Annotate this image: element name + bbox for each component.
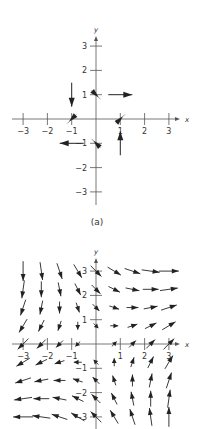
- y-tick-label: 3: [82, 42, 87, 51]
- y-axis-label: y: [93, 248, 99, 256]
- x-tick-label: −2: [42, 127, 54, 136]
- arrowhead-icon: [111, 393, 116, 400]
- arrowhead-icon: [130, 374, 135, 381]
- arrowhead-icon: [132, 287, 139, 292]
- x-tick-label: 2: [142, 352, 147, 361]
- arrowhead-icon: [110, 410, 116, 417]
- y-tick-label: 1: [82, 91, 87, 100]
- y-tick-label: 2: [82, 66, 87, 75]
- arrowhead-icon: [169, 305, 176, 310]
- arrowhead-icon: [123, 92, 132, 98]
- arrowhead-icon: [19, 325, 25, 332]
- arrowhead-icon: [112, 358, 117, 363]
- arrowhead-icon: [33, 396, 40, 401]
- arrowhead-icon: [57, 307, 62, 314]
- arrowhead-icon: [113, 287, 120, 292]
- y-tick-label: 2: [82, 291, 87, 300]
- arrowhead-icon: [75, 306, 80, 313]
- x-tick-label: −2: [42, 352, 54, 361]
- x-tick-label: −1: [66, 127, 78, 136]
- arrowhead-icon: [55, 360, 62, 365]
- vector-field-plot-b: xy−3−2−1123321−1−2−3: [0, 239, 200, 429]
- x-tick-label: −3: [17, 127, 29, 136]
- arrowhead-icon: [39, 290, 44, 297]
- arrowhead-icon: [20, 308, 25, 315]
- arrowhead-icon: [148, 408, 153, 415]
- arrowhead-icon: [69, 98, 75, 107]
- arrowhead-icon: [131, 305, 138, 310]
- arrowhead-icon: [60, 140, 69, 146]
- x-tick-label: 1: [118, 352, 123, 361]
- arrowhead-icon: [16, 361, 23, 367]
- arrowhead-icon: [152, 269, 159, 274]
- arrowhead-icon: [149, 323, 156, 328]
- y-tick-label: 3: [82, 267, 87, 276]
- arrowhead-icon: [13, 415, 20, 420]
- arrowhead-icon: [94, 36, 98, 41]
- arrowhead-icon: [130, 409, 135, 416]
- arrowhead-icon: [38, 324, 43, 331]
- arrowhead-icon: [34, 378, 41, 383]
- arrowhead-icon: [21, 274, 26, 281]
- x-axis-label: x: [184, 341, 190, 349]
- arrowhead-icon: [167, 407, 172, 414]
- arrowhead-icon: [168, 322, 175, 328]
- y-axis-label: y: [93, 26, 99, 34]
- arrowhead-icon: [94, 258, 98, 263]
- arrowhead-icon: [32, 414, 39, 419]
- arrowhead-icon: [14, 397, 21, 402]
- arrowhead-icon: [114, 269, 121, 275]
- figure-caption-a: (a): [0, 217, 194, 227]
- arrowhead-icon: [175, 117, 180, 121]
- arrowhead-icon: [15, 379, 22, 384]
- arrowhead-icon: [54, 378, 61, 383]
- y-tick-label: −2: [75, 389, 87, 398]
- y-tick-label: −2: [75, 164, 87, 173]
- y-tick-label: −3: [75, 188, 87, 197]
- arrowhead-icon: [152, 287, 159, 292]
- arrowhead-icon: [58, 324, 63, 331]
- arrowhead-icon: [148, 374, 153, 381]
- arrowhead-icon: [57, 289, 62, 296]
- arrowhead-icon: [53, 396, 60, 401]
- x-tick-label: −1: [66, 352, 78, 361]
- arrowhead-icon: [52, 414, 59, 419]
- arrowhead-icon: [113, 323, 118, 328]
- y-tick-label: −1: [75, 364, 87, 373]
- x-axis-label: x: [184, 116, 190, 124]
- arrowhead-icon: [39, 273, 44, 280]
- vector-field-plot-a: xy−3−2−1123321−1−2−3: [0, 0, 200, 215]
- arrowhead-icon: [150, 305, 157, 310]
- arrowhead-icon: [75, 288, 80, 295]
- arrowhead-icon: [130, 392, 135, 399]
- arrowhead-icon: [148, 391, 153, 398]
- arrowhead-icon: [171, 287, 178, 292]
- x-tick-label: 3: [166, 127, 171, 136]
- arrowhead-icon: [133, 269, 140, 274]
- arrowhead-icon: [112, 376, 117, 383]
- arrowhead-icon: [39, 307, 44, 314]
- arrowhead-icon: [172, 269, 179, 274]
- arrowhead-icon: [148, 356, 153, 363]
- arrowhead-icon: [20, 291, 25, 298]
- arrowhead-icon: [130, 357, 135, 364]
- arrowhead-icon: [73, 378, 80, 383]
- arrowhead-icon: [167, 373, 172, 380]
- arrowhead-icon: [167, 390, 172, 397]
- arrowhead-icon: [75, 325, 80, 330]
- arrowhead-icon: [175, 342, 180, 346]
- arrowhead-icon: [131, 324, 138, 329]
- arrowhead-icon: [112, 305, 119, 310]
- x-tick-label: 2: [142, 127, 147, 136]
- arrowhead-icon: [58, 272, 63, 279]
- y-tick-label: 1: [82, 316, 87, 325]
